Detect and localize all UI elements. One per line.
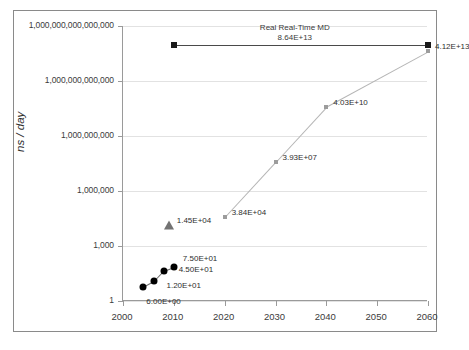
y-axis-tick [118,191,123,192]
data-point-label: 1.20E+01 [167,281,201,290]
x-axis-tick [377,301,378,306]
data-point-label: 6.00E+00 [146,297,180,306]
x-axis-tick [428,301,429,306]
data-point-triangle [164,220,174,229]
y-axis-tick [118,26,123,27]
data-point-square [324,105,328,109]
x-axis-label: 2060 [416,311,437,322]
x-axis-label: 2030 [264,311,285,322]
y-gridline [123,191,427,192]
data-point-label: 4.50E+01 [179,265,213,274]
y-axis-label: 1,000,000,000,000,000 [29,20,114,30]
y-gridline [123,246,427,247]
y-axis-tick [118,136,123,137]
y-axis-title: ns / day [14,112,26,152]
x-axis-label: 2050 [366,311,387,322]
plot-area [122,26,427,301]
data-point-circle [140,283,147,290]
data-point-label: 1.45E+04 [177,216,211,225]
y-axis-label: 1,000,000,000,000 [45,75,114,85]
reference-line-endpoint [425,42,431,48]
reference-line-title: Real Real-Time MD [260,23,330,32]
reference-line-endpoint [171,42,177,48]
reference-line [174,45,428,46]
x-axis-tick [123,301,124,306]
y-axis-label: 1,000 [93,240,114,250]
data-point-square [426,49,430,53]
data-point-label: 4.03E+10 [333,98,367,107]
data-point-label: 7.50E+01 [183,254,217,263]
x-axis-tick [326,301,327,306]
x-axis-label: 2040 [315,311,336,322]
x-axis-label: 2000 [111,311,132,322]
y-axis-label: 1,000,000,000 [61,130,114,140]
x-axis-label: 2010 [162,311,183,322]
y-axis-tick [118,81,123,82]
data-point-circle [170,263,177,270]
data-point-square [274,160,278,164]
y-axis-label: 1,000,000 [77,185,114,195]
x-axis-label: 2020 [213,311,234,322]
x-axis-tick [225,301,226,306]
y-axis-label: 1 [109,295,114,305]
data-point-circle [160,267,167,274]
data-point-circle [150,278,157,285]
data-point-label: 4.12E+13 [435,42,469,51]
x-axis-tick [276,301,277,306]
y-gridline [123,136,427,137]
y-gridline [123,81,427,82]
data-point-label: 3.84E+04 [232,208,266,217]
data-point-square [223,215,227,219]
data-point-label: 3.93E+07 [283,153,317,162]
reference-line-value: 8.64E+13 [278,33,312,42]
y-axis-tick [118,246,123,247]
